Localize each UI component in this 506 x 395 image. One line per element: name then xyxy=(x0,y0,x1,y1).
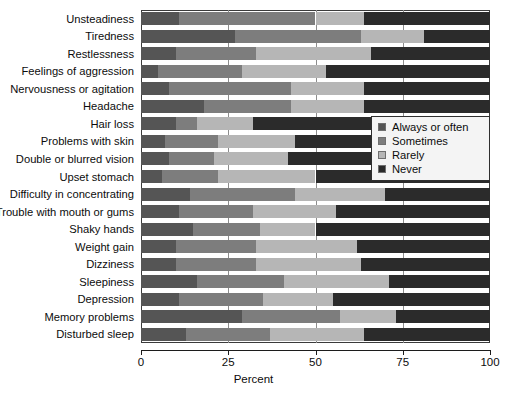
bar-segment xyxy=(179,293,263,306)
bar-row xyxy=(141,223,490,236)
bar-segment xyxy=(357,240,490,253)
category-label: Memory problems xyxy=(44,310,134,324)
bar-segment xyxy=(364,328,490,341)
category-label: Feelings of aggression xyxy=(21,64,134,78)
bar-segment xyxy=(179,12,315,25)
bar-segment xyxy=(169,82,291,95)
category-label: Depression xyxy=(77,292,134,306)
category-label: Hair loss xyxy=(90,117,134,131)
legend-label: Always or often xyxy=(392,121,468,133)
bar-segment xyxy=(141,293,179,306)
bar-segment xyxy=(176,117,197,130)
bar-segment xyxy=(141,65,158,78)
x-axis-title: Percent xyxy=(0,373,506,385)
x-axis-tick-label: 50 xyxy=(309,356,322,368)
bar-segment xyxy=(291,82,364,95)
bar-segment xyxy=(389,275,490,288)
category-axis-labels: UnsteadinessTirednessRestlessnessFeeling… xyxy=(0,10,138,343)
category-label: Problems with skin xyxy=(41,134,134,148)
legend-swatch-icon xyxy=(378,151,386,159)
x-axis-tick-label: 100 xyxy=(480,356,499,368)
bar-segment xyxy=(141,310,242,323)
bar-segment xyxy=(326,65,490,78)
x-axis-tick xyxy=(316,351,317,355)
legend-swatch-icon xyxy=(378,137,386,145)
bar-segment xyxy=(197,275,284,288)
bar-segment xyxy=(333,293,490,306)
bar-segment xyxy=(218,135,295,148)
bar-segment xyxy=(204,100,291,113)
x-axis-tick-label: 75 xyxy=(396,356,409,368)
bar-segment xyxy=(214,152,287,165)
x-axis-tick-label: 25 xyxy=(222,356,235,368)
bar-segment xyxy=(284,275,389,288)
bar-segment xyxy=(424,30,490,43)
bar-segment xyxy=(179,205,252,218)
bar-row xyxy=(141,82,490,95)
legend-label: Never xyxy=(392,163,422,175)
bar-row xyxy=(141,328,490,341)
bar-segment xyxy=(141,47,176,60)
category-label: Headache xyxy=(83,99,134,113)
legend-item[interactable]: Always or often xyxy=(372,120,489,134)
bar-row xyxy=(141,293,490,306)
legend-item[interactable]: Never xyxy=(372,162,489,176)
bar-segment xyxy=(371,47,490,60)
bar-segment xyxy=(242,310,340,323)
bar-segment xyxy=(396,310,490,323)
bar-row xyxy=(141,12,490,25)
bar-segment xyxy=(260,223,316,236)
x-axis-title-label: Percent xyxy=(234,373,274,385)
category-label: Upset stomach xyxy=(59,170,134,184)
bar-segment xyxy=(336,205,490,218)
bar-segment xyxy=(165,135,217,148)
bar-row xyxy=(141,65,490,78)
bar-segment xyxy=(141,240,176,253)
legend-item[interactable]: Sometimes xyxy=(372,134,489,148)
bar-segment xyxy=(169,152,214,165)
bar-segment xyxy=(141,152,169,165)
bar-row xyxy=(141,310,490,323)
bar-segment xyxy=(141,188,190,201)
bar-segment xyxy=(141,135,165,148)
legend-swatch-icon xyxy=(378,123,386,131)
bar-segment xyxy=(141,328,186,341)
x-axis-tick xyxy=(403,351,404,355)
category-label: Double or blurred vision xyxy=(16,152,134,166)
bar-segment xyxy=(361,30,424,43)
bar-segment xyxy=(141,170,162,183)
x-axis-tick xyxy=(228,351,229,355)
legend: Always or oftenSometimesRarelyNever xyxy=(371,116,490,181)
bar-segment xyxy=(141,82,169,95)
bar-row xyxy=(141,47,490,60)
x-axis-tick-label: 0 xyxy=(138,356,144,368)
category-label: Tiredness xyxy=(85,29,134,43)
category-label: Trouble with mouth or gums xyxy=(0,205,134,219)
category-label: Shaky hands xyxy=(69,222,134,236)
bar-segment xyxy=(141,117,176,130)
bar-segment xyxy=(253,205,337,218)
bar-segment xyxy=(364,100,490,113)
bar-segment xyxy=(197,117,253,130)
bar-segment xyxy=(316,12,365,25)
bar-segment xyxy=(361,258,490,271)
bar-segment xyxy=(340,310,396,323)
bar-row xyxy=(141,100,490,113)
legend-label: Rarely xyxy=(392,149,424,161)
bar-segment xyxy=(141,275,197,288)
legend-swatch-icon xyxy=(378,165,386,173)
bar-segment xyxy=(193,223,259,236)
bar-segment xyxy=(270,328,364,341)
bar-segment xyxy=(256,240,357,253)
bar-row xyxy=(141,240,490,253)
category-label: Nervousness or agitation xyxy=(10,82,134,96)
category-label: Weight gain xyxy=(75,240,134,254)
bar-segment xyxy=(364,12,490,25)
bar-segment xyxy=(176,258,256,271)
category-label: Disturbed sleep xyxy=(56,327,134,341)
bar-row xyxy=(141,275,490,288)
legend-item[interactable]: Rarely xyxy=(372,148,489,162)
bar-segment xyxy=(242,65,326,78)
bar-segment xyxy=(316,223,491,236)
bar-segment xyxy=(141,100,204,113)
